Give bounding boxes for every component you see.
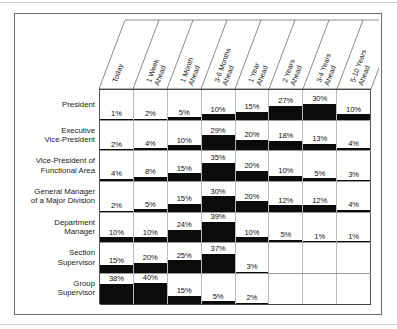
chart-cell: 30% [202, 182, 236, 212]
chart-cell: 10% [337, 90, 371, 120]
chart-cell: 30% [303, 90, 337, 120]
row-label: General Managerof a Major Division [16, 181, 99, 212]
value-label: 20% [236, 130, 269, 139]
value-bar [337, 210, 370, 212]
value-label: 5% [303, 169, 336, 178]
value-label: 29% [202, 126, 235, 135]
value-label: 1% [337, 232, 370, 241]
chart-row: 10%10%24%39%10%5%1%1% [100, 213, 371, 244]
value-bar [168, 260, 201, 273]
value-label: 15% [100, 256, 133, 265]
chart-cell: 2% [100, 121, 134, 151]
value-label: 30% [202, 187, 235, 196]
value-bar [100, 265, 133, 273]
value-label: 2% [236, 293, 269, 302]
chart-cell: 4% [337, 182, 371, 212]
chart-cell: 10% [134, 213, 168, 243]
value-bar [100, 119, 133, 120]
row-label-line: Section [58, 248, 95, 257]
value-bar [134, 177, 167, 181]
value-label: 4% [134, 139, 167, 148]
chart-cell: 20% [236, 182, 270, 212]
chart-row: 4%8%15%35%20%10%5%3% [100, 151, 371, 182]
chart-cell: 8% [134, 151, 168, 181]
chart-page: Today1 WeekAhead1 MonthAhead3-6 MonthsAh… [0, 0, 397, 329]
value-bar [236, 112, 269, 120]
chart-cell: 5% [202, 274, 236, 304]
chart-cell: 35% [202, 151, 236, 181]
row-label-line: of a Major Division [31, 196, 95, 205]
chart-cell: 15% [168, 182, 202, 212]
value-label: 10% [168, 136, 201, 145]
scan-artifact-top [0, 2, 397, 3]
value-bar [337, 114, 370, 119]
value-bar [236, 237, 269, 242]
value-label: 4% [337, 200, 370, 209]
chart-cell: 10% [269, 151, 303, 181]
value-label: 40% [134, 274, 167, 282]
column-header-svg: Today1 WeekAhead1 MonthAhead3-6 MonthsAh… [39, 16, 379, 92]
chart-cell: 10% [202, 90, 236, 120]
value-label: 5% [168, 108, 201, 117]
chart-cell: 27% [269, 90, 303, 120]
value-bar [269, 176, 302, 181]
chart-cell: 2% [134, 90, 168, 120]
chart-cell: 3% [236, 243, 270, 273]
value-bar [168, 173, 201, 181]
chart-cell: 5% [134, 182, 168, 212]
chart-row: 15%20%25%37%3% [100, 243, 371, 274]
value-label: 2% [100, 140, 133, 149]
row-label: GroupSupervisor [16, 273, 99, 304]
value-bar [100, 237, 133, 242]
column-header-5: 1 YearAhead [246, 61, 270, 87]
value-bar [168, 117, 201, 120]
value-bar [202, 301, 235, 304]
value-bar [202, 254, 235, 273]
chart-cell: 12% [269, 182, 303, 212]
scan-artifact-bottom [0, 324, 397, 325]
value-label: 10% [134, 228, 167, 237]
chart-cell [337, 274, 371, 304]
value-bar [202, 114, 235, 119]
value-bar [202, 163, 235, 181]
row-label-line: Manager [54, 227, 95, 236]
chart-cell: 15% [168, 274, 202, 304]
value-bar [134, 119, 167, 120]
chart-cell: 24% [168, 213, 202, 243]
value-label: 10% [100, 228, 133, 237]
value-label: 15% [168, 286, 201, 295]
chart-row: 38%40%15%5%2% [100, 274, 371, 305]
value-bar [269, 240, 302, 243]
value-bar [269, 205, 302, 211]
chart-cell: 1% [100, 90, 134, 120]
value-label: 18% [269, 131, 302, 140]
row-label-line: General Manager [31, 187, 95, 196]
chart-cell: 20% [236, 151, 270, 181]
value-label: 10% [337, 105, 370, 114]
value-bar [134, 237, 167, 242]
chart-row: 1%2%5%10%15%27%30%10% [100, 90, 371, 121]
chart-cell: 5% [269, 213, 303, 243]
value-bar [269, 106, 302, 120]
chart-cell: 4% [337, 121, 371, 151]
chart-cell: 39% [202, 213, 236, 243]
chart-cell: 5% [168, 90, 202, 120]
chart-cell [303, 274, 337, 304]
column-header-7: 3-4 YearsAhead [314, 52, 341, 87]
value-bar [303, 241, 336, 242]
column-header-6: 2 YearsAhead [280, 58, 305, 87]
chart-row: 2%5%15%30%20%12%12%4% [100, 182, 371, 213]
chart-cell [303, 243, 337, 273]
value-label: 8% [134, 167, 167, 176]
chart-cell: 1% [303, 213, 337, 243]
value-bar [303, 178, 336, 181]
value-bar [337, 241, 370, 242]
value-bar [134, 283, 167, 304]
value-bar [303, 104, 336, 120]
value-label: 15% [168, 194, 201, 203]
value-bar [134, 209, 167, 212]
value-bar [168, 230, 201, 243]
value-label: 1% [303, 232, 336, 241]
value-bar [337, 148, 370, 150]
row-label-line: Supervisor [58, 258, 95, 267]
